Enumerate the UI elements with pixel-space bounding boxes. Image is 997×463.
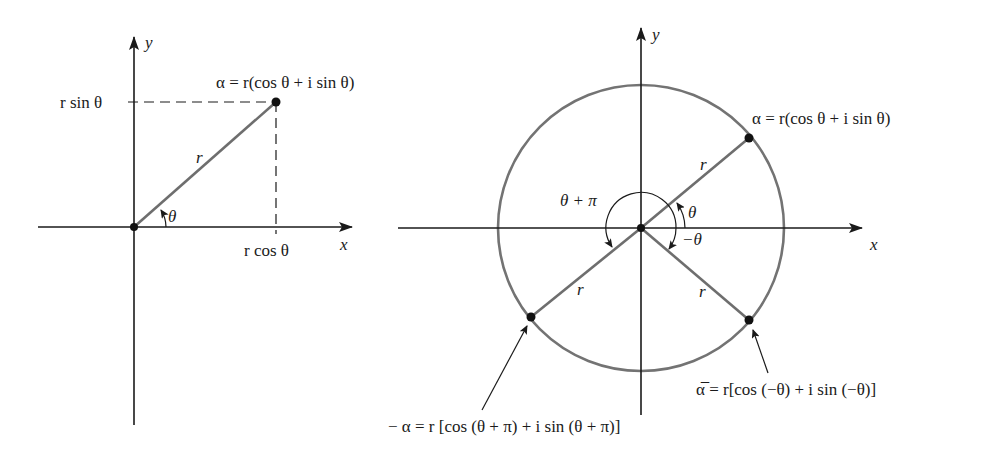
alpha-label: α = r(cos θ + i sin θ) [752, 109, 890, 128]
x-axis-label: x [869, 235, 878, 254]
radius-label: r [196, 148, 203, 167]
r-cos-theta-label: r cos θ [244, 241, 289, 260]
alpha-point [745, 134, 754, 143]
alpha-point-label: α = r(cos θ + i sin θ) [216, 73, 354, 92]
r-sin-theta-label: r sin θ [60, 93, 102, 112]
neg-alpha-radius-label: r [577, 280, 584, 299]
neg-alpha-radius-line [531, 228, 641, 317]
origin-point [130, 223, 138, 231]
angle-theta-arc [161, 210, 166, 227]
y-axis-label: y [143, 33, 153, 52]
neg-alpha-label: − α = r [cos (θ + π) + i sin (θ + π)] [388, 417, 620, 436]
angle-neg-theta-arc [669, 228, 676, 249]
alpha-point [272, 98, 281, 107]
conj-alpha-pointer-arrow [753, 330, 768, 373]
conj-alpha-radius-label: r [699, 282, 706, 301]
left-panel: y x α = r(cos θ + i sin θ) r sin θ r cos… [38, 33, 354, 425]
alpha-radius-label: r [700, 155, 707, 174]
angle-neg-theta-label: −θ [682, 230, 702, 249]
angle-theta-label: θ [168, 207, 176, 226]
x-axis-label: x [339, 235, 348, 254]
y-axis-label: y [650, 25, 660, 44]
neg-alpha-point [527, 313, 536, 322]
right-panel: y x α = r(cos θ + i sin θ) α̅ = r[cos (−… [388, 25, 890, 436]
origin-point [637, 224, 645, 232]
angle-theta-plus-pi-label: θ + π [560, 191, 597, 210]
conj-alpha-point [745, 316, 754, 325]
radius-line [134, 102, 276, 227]
complex-plane-figure: y x α = r(cos θ + i sin θ) r sin θ r cos… [0, 0, 997, 463]
conj-alpha-label: α̅ = r[cos (−θ) + i sin (−θ)] [696, 380, 876, 399]
angle-theta-label: θ [688, 203, 696, 222]
angle-theta-arc [677, 203, 685, 228]
neg-alpha-pointer-arrow [482, 326, 527, 410]
